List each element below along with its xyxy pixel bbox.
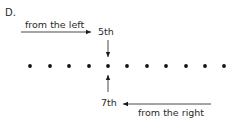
dot bbox=[125, 64, 129, 68]
diagram-graphics bbox=[0, 0, 235, 122]
dot bbox=[164, 64, 168, 68]
dot bbox=[203, 64, 207, 68]
dot bbox=[48, 64, 52, 68]
dot bbox=[184, 64, 188, 68]
dot bbox=[222, 64, 226, 68]
dot bbox=[87, 64, 91, 68]
dot bbox=[67, 64, 71, 68]
dot bbox=[28, 64, 32, 68]
dot-row bbox=[28, 64, 226, 68]
dot bbox=[145, 64, 149, 68]
dot-highlighted bbox=[106, 64, 110, 68]
